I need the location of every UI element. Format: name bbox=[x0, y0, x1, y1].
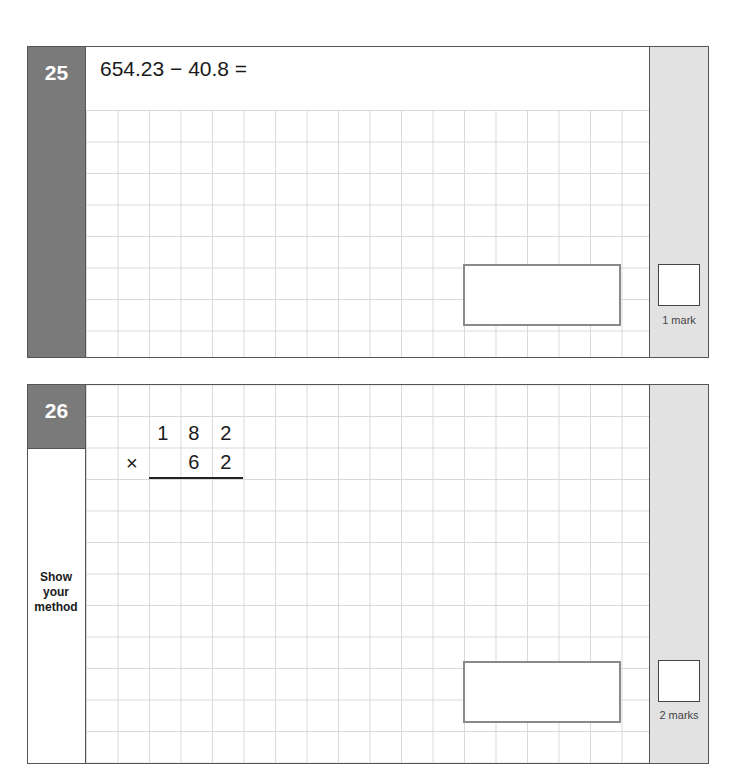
digit: 2 bbox=[210, 422, 242, 445]
marks-label: 1 mark bbox=[650, 314, 708, 326]
question-prompt: 654.23 − 40.8 = bbox=[100, 57, 247, 81]
marks-margin: 2 marks bbox=[649, 385, 708, 763]
multiplication-rule bbox=[149, 477, 243, 479]
question-number: 26 bbox=[28, 399, 85, 423]
question-number: 25 bbox=[28, 61, 85, 85]
answer-box[interactable] bbox=[463, 264, 621, 326]
method-label-line: method bbox=[28, 600, 84, 615]
multiply-operator: × bbox=[116, 452, 148, 475]
question-number-header: 26 bbox=[28, 385, 85, 449]
digit: 2 bbox=[210, 451, 242, 474]
answer-box[interactable] bbox=[463, 661, 621, 723]
digit: 6 bbox=[178, 451, 210, 474]
digit: 1 bbox=[147, 422, 179, 445]
show-your-method-label: Show your method bbox=[28, 570, 84, 615]
question-26: 26 Show your method 1 8 2 × 6 2 2 marks bbox=[27, 384, 709, 764]
method-label-line: Show bbox=[28, 570, 84, 585]
digit: 8 bbox=[178, 422, 210, 445]
mark-box[interactable] bbox=[658, 660, 700, 702]
marks-label: 2 marks bbox=[650, 709, 708, 721]
mark-box[interactable] bbox=[658, 264, 700, 306]
question-number-column: 26 Show your method bbox=[28, 385, 86, 763]
question-number-column: 25 bbox=[28, 47, 86, 357]
method-label-line: your bbox=[28, 585, 84, 600]
marks-margin: 1 mark bbox=[649, 47, 708, 357]
question-25: 25 654.23 − 40.8 = 1 mark bbox=[27, 46, 709, 358]
